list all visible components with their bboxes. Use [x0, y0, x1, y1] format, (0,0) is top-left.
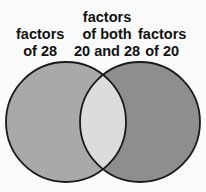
- label-line: factors: [16, 26, 64, 43]
- label-factors-of-20: factors of 20: [138, 26, 186, 60]
- label-line: of 28: [16, 43, 64, 60]
- label-intersection: factors of both 20 and 28: [74, 9, 140, 60]
- label-line: factors: [74, 9, 140, 26]
- label-factors-of-28: factors of 28: [16, 26, 64, 60]
- label-line: of 20: [138, 43, 186, 60]
- label-line: factors: [138, 26, 186, 43]
- label-line: of both: [74, 26, 140, 43]
- label-line: 20 and 28: [74, 43, 140, 60]
